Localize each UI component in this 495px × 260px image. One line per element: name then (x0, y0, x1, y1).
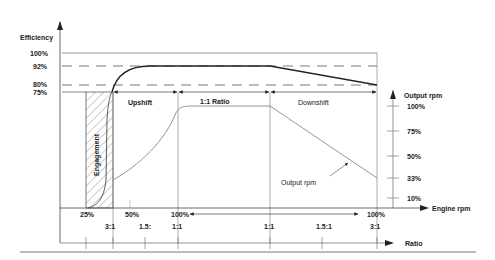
output-tick-33: 33% (407, 175, 422, 182)
downshift-label: Downshift (298, 99, 329, 106)
output-tick-75: 75% (407, 128, 422, 135)
ratio-tick-3-1-right: 3:1 (370, 223, 380, 230)
output-tick-10: 10% (407, 195, 422, 202)
efficiency-tick-92: 92% (33, 63, 48, 70)
engine-tick-50: 50% (125, 211, 140, 218)
arrow-right-icon (385, 240, 394, 246)
ratio-tick-1-1-left: 1:1 (172, 223, 182, 230)
diagram-canvas: Efficiency 100% 92% 80% 75% Upshift 1:1 … (0, 0, 495, 260)
arrow-up-icon (57, 21, 63, 30)
ratio-tick-3-1-left: 3:1 (105, 223, 115, 230)
efficiency-tick-100: 100% (30, 50, 49, 57)
output-rpm-axis (387, 90, 399, 208)
ratio-tick-1-1-right: 1:1 (264, 223, 274, 230)
efficiency-axis (57, 21, 63, 243)
output-rpm-curve (113, 106, 377, 180)
engine-tick-25: 25% (80, 211, 95, 218)
engine-tick-100-right: 100% (367, 211, 386, 218)
output-tick-50: 50% (407, 153, 422, 160)
ratio-tick-1-5-left: 1.5: (139, 223, 151, 230)
efficiency-tick-80: 80% (33, 81, 48, 88)
efficiency-tick-75: 75% (33, 89, 48, 96)
engine-rpm-axis-title: Engine rpm (432, 205, 471, 213)
ratio-1-1-label: 1:1 Ratio (200, 98, 230, 105)
output-rpm-axis-title: Output rpm (404, 92, 442, 100)
output-tick-100: 100% (407, 103, 426, 110)
arrow-up-icon (390, 90, 396, 99)
ratio-tick-1-5-right: 1.5:1 (316, 223, 332, 230)
engagement-label: Engagement (93, 133, 101, 176)
engine-tick-100-left: 100% (171, 211, 190, 218)
arrow-right-icon (420, 205, 429, 211)
efficiency-reference-lines (62, 53, 377, 92)
output-rpm-pointer (330, 163, 348, 176)
output-rpm-annotation: Output rpm (281, 179, 316, 187)
ratio-axis-title: Ratio (405, 240, 423, 247)
efficiency-curve (112, 66, 377, 92)
ratio-axis (60, 237, 394, 249)
efficiency-axis-title: Efficiency (20, 34, 53, 42)
upshift-label: Upshift (128, 99, 153, 107)
division-lines (113, 92, 270, 243)
